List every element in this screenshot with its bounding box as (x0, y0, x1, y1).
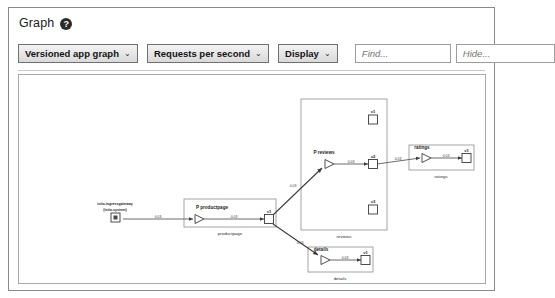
chevron-down-icon: ⌄ (124, 49, 131, 58)
graph-type-dropdown[interactable]: Versioned app graph ⌄ (18, 44, 138, 63)
node-ingressgateway-inner (114, 216, 118, 220)
edge-label-reviews-to-ratings: 0.03 (395, 157, 402, 161)
group-label-details: details (334, 276, 347, 281)
node-ratings-v1[interactable] (462, 154, 471, 163)
edge-label-ratings-app-to-v1: 0.03 (443, 154, 450, 158)
group-label-ratings: ratings (434, 174, 448, 179)
hide-input[interactable] (456, 44, 555, 63)
display-dropdown[interactable]: Display ⌄ (278, 44, 338, 63)
group-box-productpage[interactable] (184, 199, 276, 227)
node-label-reviews-v1: v1 (371, 109, 376, 114)
toolbar-divider-rule (18, 70, 485, 71)
edge-label-productpage-app-to-v1: 0.03 (231, 215, 238, 219)
display-label: Display (285, 48, 319, 59)
graph-toolbar: Versioned app graph ⌄ Requests per secon… (9, 38, 494, 68)
node-productpage-v1[interactable] (265, 215, 274, 224)
graph-type-label: Versioned app graph (25, 48, 119, 59)
question-circle-icon[interactable]: ? (60, 18, 72, 30)
page-header: Graph ? (9, 8, 494, 38)
chevron-down-icon: ⌄ (324, 49, 331, 58)
metric-dropdown[interactable]: Requests per second ⌄ (147, 44, 269, 63)
edge-label-productpage-to-details: 0.03 (297, 241, 304, 245)
node-label-reviews-app: P reviews (313, 150, 335, 155)
node-label-reviews-v2: v2 (371, 154, 376, 159)
graph-panel: Graph ? Versioned app graph ⌄ Requests p… (8, 7, 495, 291)
node-reviews-v1[interactable] (369, 115, 378, 124)
edge-label-details-app-to-v1: 0.03 (342, 256, 349, 260)
node-details-v1[interactable] (361, 256, 370, 265)
edge-label-reviews-app-to-v2: 0.03 (348, 160, 355, 164)
node-label-ratings-v1: v1 (464, 148, 469, 153)
group-label-productpage: productpage (218, 231, 243, 236)
node-label-productpage-v1: v1 (267, 209, 272, 214)
node-label-ingressgateway-namespace: (istio-system) (103, 208, 127, 212)
node-label-reviews-v3: v3 (371, 199, 376, 204)
graph-canvas[interactable]: productpage reviews ratings details 0.03… (18, 74, 486, 284)
chevron-down-icon: ⌄ (255, 49, 262, 58)
group-label-reviews: reviews (337, 234, 353, 239)
find-input[interactable] (355, 44, 451, 63)
page-title: Graph (19, 16, 54, 30)
edge-label-productpage-to-reviews: 0.03 (290, 184, 297, 188)
node-label-details-app: details (314, 247, 329, 252)
metric-label: Requests per second (154, 48, 250, 59)
node-label-ratings-app: ratings (414, 145, 430, 150)
node-reviews-v3[interactable] (369, 205, 378, 214)
node-reviews-v2[interactable] (369, 160, 378, 169)
node-label-ingressgateway-name: istio-ingressgateway (97, 202, 133, 206)
node-label-details-v1: v1 (363, 250, 368, 255)
service-mesh-graph[interactable]: productpage reviews ratings details 0.03… (19, 75, 486, 284)
node-label-productpage-app: P productpage (196, 205, 229, 210)
edge-label-ingress-to-productpage: 0.03 (155, 215, 162, 219)
